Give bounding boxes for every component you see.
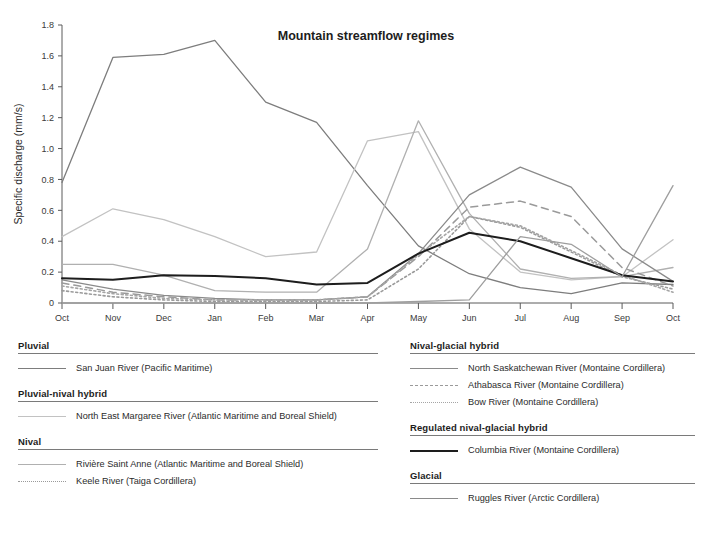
legend-item-label: Bow River (Montaine Cordillera) [468, 397, 598, 407]
series-line [62, 217, 673, 302]
legend-group: NivalRivière Saint Anne (Atlantic Mariti… [18, 436, 378, 489]
y-tick-label: 1.8 [41, 20, 54, 30]
legend-line-swatch-icon [18, 459, 66, 469]
legend-group-title: Pluvial-nival hybrid [18, 388, 378, 401]
chart-title-group: Mountain streamflow regimes [278, 29, 454, 43]
legend-group-title: Pluvial [18, 340, 378, 353]
legend-item[interactable]: Columbia River (Montaine Cordillera) [410, 441, 695, 458]
legend-item[interactable]: North Saskatchewan River (Montaine Cordi… [410, 359, 695, 376]
y-tick-label: 0 [49, 298, 54, 308]
series-layer [62, 40, 673, 303]
x-tick-label: Nov [105, 313, 122, 323]
x-tick-label: Feb [258, 313, 274, 323]
x-tick-label: Jul [514, 313, 526, 323]
legend-group-rule [410, 483, 695, 484]
series-line [62, 217, 673, 300]
legend-group: Regulated nival-glacial hybridColumbia R… [410, 422, 695, 458]
legend-line-swatch-icon [410, 380, 458, 390]
y-tick-label: 0.8 [41, 175, 54, 185]
series-line [62, 186, 673, 303]
legend-line-swatch-icon [18, 363, 66, 373]
x-tick-label: Jan [207, 313, 222, 323]
chart-title: Mountain streamflow regimes [278, 29, 454, 43]
y-tick-label: 1.6 [41, 51, 54, 61]
legend-line-swatch-icon [18, 411, 66, 421]
legend-line-swatch-icon [410, 445, 458, 455]
y-tick-label: 1.2 [41, 113, 54, 123]
legend-group-title: Nival-glacial hybrid [410, 340, 695, 353]
y-axis-title-group: Specific discharge (mm/s) [12, 104, 24, 225]
y-axis-title: Specific discharge (mm/s) [12, 104, 24, 225]
legend-group-title: Nival [18, 436, 378, 449]
legend-column-left: PluvialSan Juan River (Pacific Maritime)… [18, 340, 378, 501]
x-tick-label: Apr [360, 313, 374, 323]
legend-line-swatch-icon [410, 363, 458, 373]
y-axis: 00.20.40.60.81.01.21.41.61.8 [41, 20, 62, 308]
legend-line-swatch-icon [410, 493, 458, 503]
y-tick-label: 1.0 [41, 144, 54, 154]
x-tick-label: Mar [309, 313, 325, 323]
x-tick-label: May [410, 313, 428, 323]
chart-panel: Mountain streamflow regimes Specific dis… [0, 0, 703, 340]
legend-group-title: Regulated nival-glacial hybrid [410, 422, 695, 435]
x-tick-label: Sep [614, 313, 630, 323]
legend-group-rule [410, 353, 695, 354]
legend-line-swatch-icon [410, 397, 458, 407]
legend-column-right: Nival-glacial hybridNorth Saskatchewan R… [410, 340, 695, 518]
legend-item[interactable]: Rivière Saint Anne (Atlantic Maritime an… [18, 455, 378, 472]
legend-item-label: North East Margaree River (Atlantic Mari… [76, 411, 337, 421]
y-tick-label: 0.2 [41, 267, 54, 277]
legend-item-label: North Saskatchewan River (Montaine Cordi… [468, 363, 665, 373]
legend-item[interactable]: Bow River (Montaine Cordillera) [410, 393, 695, 410]
x-axis: OctNovDecJanFebMarAprMayJunJulAugSepOct [55, 303, 681, 323]
legend-group: Nival-glacial hybridNorth Saskatchewan R… [410, 340, 695, 410]
legend-item[interactable]: Keele River (Taiga Cordillera) [18, 472, 378, 489]
legend-group: GlacialRuggles River (Arctic Cordillera) [410, 470, 695, 506]
series-line [62, 167, 673, 300]
legend-group-rule [18, 401, 378, 402]
x-tick-label: Oct [666, 313, 681, 323]
legend-item[interactable]: North East Margaree River (Atlantic Mari… [18, 407, 378, 424]
legend-item-label: Rivière Saint Anne (Atlantic Maritime an… [76, 459, 303, 469]
legend-item-label: San Juan River (Pacific Maritime) [76, 363, 212, 373]
legend-item[interactable]: Ruggles River (Arctic Cordillera) [410, 489, 695, 506]
legend-group-rule [18, 449, 378, 450]
x-tick-label: Jun [462, 313, 477, 323]
x-tick-label: Oct [55, 313, 70, 323]
legend-line-swatch-icon [18, 476, 66, 486]
legend-group: Pluvial-nival hybridNorth East Margaree … [18, 388, 378, 424]
legend-item-label: Keele River (Taiga Cordillera) [76, 476, 196, 486]
y-tick-label: 0.4 [41, 236, 54, 246]
series-line [62, 121, 673, 292]
x-tick-label: Dec [156, 313, 173, 323]
legend-item-label: Columbia River (Montaine Cordillera) [468, 445, 619, 455]
y-tick-label: 0.6 [41, 206, 54, 216]
streamflow-line-chart: Mountain streamflow regimes Specific dis… [0, 0, 703, 340]
legend-group: PluvialSan Juan River (Pacific Maritime) [18, 340, 378, 376]
legend-item-label: Ruggles River (Arctic Cordillera) [468, 493, 599, 503]
legend-panel: PluvialSan Juan River (Pacific Maritime)… [0, 340, 703, 551]
x-tick-label: Aug [563, 313, 579, 323]
legend-group-title: Glacial [410, 470, 695, 483]
legend-item[interactable]: San Juan River (Pacific Maritime) [18, 359, 378, 376]
legend-item[interactable]: Athabasca River (Montaine Cordillera) [410, 376, 695, 393]
legend-group-rule [18, 353, 378, 354]
legend-item-label: Athabasca River (Montaine Cordillera) [468, 380, 624, 390]
legend-group-rule [410, 435, 695, 436]
y-tick-label: 1.4 [41, 82, 54, 92]
series-line [62, 233, 673, 285]
